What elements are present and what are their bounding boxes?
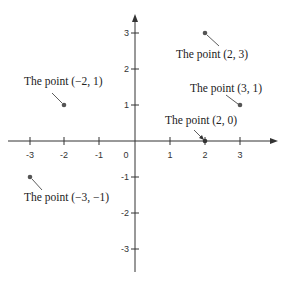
y-tick-label: -2 [121, 208, 129, 218]
x-tick-label: -3 [26, 150, 34, 160]
point-3-1: The point (3, 1) [190, 82, 262, 107]
y-tick-label: -3 [121, 244, 129, 254]
x-tick-label: 1 [167, 150, 172, 160]
y-tick-label: 1 [124, 100, 129, 110]
coordinate-plane: -3 -2 -1 0 1 2 3 3 2 1 -1 -2 -3 The poin… [0, 0, 286, 285]
point-2-0: The point (2, 0) [165, 114, 237, 143]
point-label: The point (−2, 1) [24, 75, 103, 88]
point-label: The point (2, 3) [176, 48, 248, 61]
y-tick-label: 2 [124, 64, 129, 74]
x-tick-label: -2 [60, 150, 68, 160]
origin-label: 0 [123, 150, 128, 160]
y-tick-label: -1 [121, 172, 129, 182]
x-tick-label: 2 [202, 150, 207, 160]
point-label: The point (2, 0) [165, 114, 237, 127]
point-2-3: The point (2, 3) [176, 31, 248, 61]
x-tick-label: -1 [95, 150, 103, 160]
point-label: The point (3, 1) [190, 82, 262, 95]
y-axis-arrow-icon [132, 14, 138, 22]
point-neg3-neg1: The point (−3, −1) [24, 175, 109, 204]
x-tick-label: 3 [237, 150, 242, 160]
y-tick-label: 3 [124, 28, 129, 38]
point-neg2-1: The point (−2, 1) [24, 75, 103, 107]
point-label: The point (−3, −1) [24, 191, 109, 204]
x-axis-arrow-icon [270, 138, 278, 144]
